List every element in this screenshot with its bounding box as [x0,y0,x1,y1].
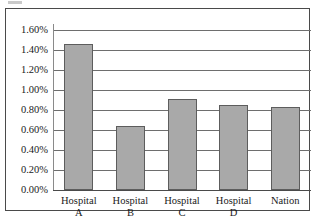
category-label-line1: Nation [254,195,316,207]
x-axis-category-label: Nation [254,195,316,207]
plot-area: 1.60%1.40%1.20%1.00%0.80%0.60%0.40%0.20%… [53,24,311,191]
x-axis-line [53,190,311,191]
bar [271,107,300,190]
scan-artifact [8,1,22,4]
y-axis-tick-label: 0.00% [0,185,48,195]
y-axis-tick-label: 0.20% [0,165,48,175]
y-axis-tick-label: 1.40% [0,45,48,55]
gridline [53,30,311,31]
y-axis-tick-label: 0.40% [0,145,48,155]
y-axis-tick-label: 1.00% [0,85,48,95]
bar [64,44,93,190]
y-axis-tick-label: 0.80% [0,105,48,115]
bar [116,126,145,190]
y-axis-tick-label: 1.20% [0,65,48,75]
bar [219,105,248,190]
category-label-line2: D [203,207,265,217]
chart-frame: 1.60%1.40%1.20%1.00%0.80%0.60%0.40%0.20%… [5,8,310,211]
y-axis-tick-label: 1.60% [0,25,48,35]
bar [168,99,197,190]
y-axis-line [53,24,54,191]
y-axis-tick-label: 0.60% [0,125,48,135]
